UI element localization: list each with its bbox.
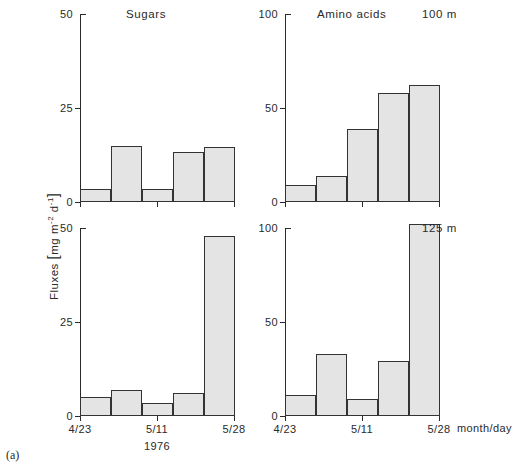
panel-sugars-125m: 0 25 50 4/23 5/11 5/28 1976	[80, 228, 235, 416]
bar-series-sugars-100m	[80, 14, 235, 202]
panel-title-sugars: Sugars	[126, 8, 166, 20]
bar-2	[142, 189, 173, 202]
x-tick-0	[285, 202, 286, 207]
x-tick-1	[362, 416, 363, 421]
bar-4	[204, 147, 235, 202]
bar-2	[142, 403, 173, 416]
panel-amino-125m: 0 50 100 4/23 5/11 5/28 125 m month/day	[285, 228, 440, 416]
x-tick-label-1: 5/11	[146, 423, 168, 435]
y-axis-exponent-2: -1	[46, 197, 55, 205]
bar-series-amino-125m	[285, 228, 440, 416]
bar-3	[378, 93, 409, 202]
x-tick-1	[157, 202, 158, 207]
y-axis-unit-1: mg m	[48, 224, 60, 255]
bar-3	[378, 361, 409, 416]
bar-1	[111, 390, 142, 416]
panel-sugars-100m: 0 25 50 Sugars	[80, 14, 235, 202]
bar-0	[80, 397, 111, 416]
panel-amino-100m: 0 50 100 Amino acids 100 m	[285, 14, 440, 202]
y-axis-bracket-close: ]	[44, 192, 61, 197]
y-axis-exponent-1: -2	[46, 216, 55, 224]
bar-3	[173, 152, 204, 202]
y-axis-label: Fluxes [mg m-2 d-1]	[44, 192, 61, 300]
x-tick-1	[362, 202, 363, 207]
panel-depth-100m: 100 m	[422, 8, 457, 20]
x-tick-2	[234, 416, 235, 421]
subfigure-label: (a)	[6, 448, 19, 463]
y-tick-label-100: 100	[258, 8, 278, 20]
x-tick-0	[285, 416, 286, 421]
y-tick-label-50: 50	[265, 316, 278, 328]
x-tick-0	[80, 202, 81, 207]
y-tick-label-50: 50	[265, 102, 278, 114]
y-tick-label-50: 50	[60, 222, 73, 234]
x-axis-year-label: 1976	[144, 440, 170, 452]
x-tick-label-0: 4/23	[273, 423, 296, 435]
y-tick-label-100: 100	[258, 222, 278, 234]
x-tick-2	[439, 416, 440, 421]
y-axis-unit-2: d	[48, 205, 60, 216]
y-tick-label-25: 25	[60, 102, 73, 114]
x-tick-2	[234, 202, 235, 207]
panel-depth-125m: 125 m	[422, 222, 457, 234]
y-tick-label-0: 0	[66, 196, 73, 208]
y-tick-label-50: 50	[60, 8, 73, 20]
bar-4	[204, 236, 235, 416]
x-tick-label-1: 5/11	[351, 423, 373, 435]
y-axis-bracket-open: [	[44, 255, 61, 260]
y-tick-label-25: 25	[60, 316, 73, 328]
bar-2	[347, 129, 378, 202]
x-axis-unit-label: month/day	[457, 422, 512, 434]
y-tick-label-0: 0	[66, 410, 73, 422]
bar-series-amino-100m	[285, 14, 440, 202]
bar-1	[316, 354, 347, 416]
bar-series-sugars-125m	[80, 228, 235, 416]
x-tick-label-0: 4/23	[68, 423, 91, 435]
panel-title-amino: Amino acids	[317, 8, 386, 20]
bar-4	[409, 85, 440, 202]
bar-1	[316, 176, 347, 202]
bar-1	[111, 146, 142, 202]
y-axis-label-text: Fluxes	[48, 263, 60, 300]
bar-4	[409, 224, 440, 416]
y-tick-label-0: 0	[271, 196, 278, 208]
x-tick-label-2: 5/28	[222, 423, 245, 435]
x-tick-label-2: 5/28	[427, 423, 450, 435]
x-tick-0	[80, 416, 81, 421]
x-tick-2	[439, 202, 440, 207]
bar-0	[285, 185, 316, 202]
y-tick-label-0: 0	[271, 410, 278, 422]
bar-2	[347, 399, 378, 416]
x-tick-1	[157, 416, 158, 421]
bar-3	[173, 393, 204, 416]
bar-0	[80, 189, 111, 202]
bar-0	[285, 395, 316, 416]
